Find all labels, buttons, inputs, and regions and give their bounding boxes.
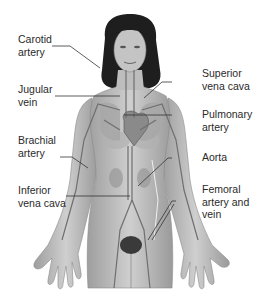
label-brachial-artery: Brachial artery — [18, 134, 56, 159]
circulatory-diagram: Carotid artery Jugular vein Brachial art… — [0, 0, 261, 301]
face — [114, 28, 146, 72]
neck — [116, 70, 144, 90]
label-pulmonary-artery: Pulmonary artery — [202, 108, 252, 133]
label-carotid-artery: Carotid artery — [18, 33, 52, 58]
label-superior-vena-cava: Superior vena cava — [202, 67, 250, 92]
label-aorta: Aorta — [202, 151, 227, 164]
label-inferior-vena-cava: Inferior vena cava — [18, 184, 66, 209]
label-jugular-vein: Jugular vein — [18, 83, 52, 108]
label-femoral-artery-and-vein: Femoral artery and vein — [202, 183, 249, 221]
